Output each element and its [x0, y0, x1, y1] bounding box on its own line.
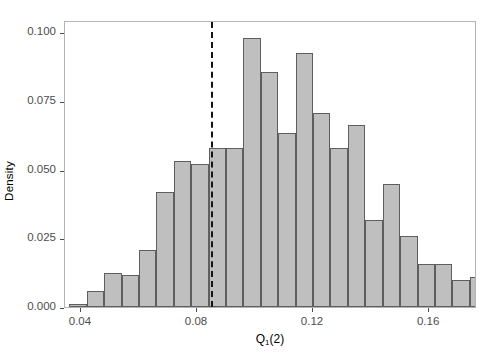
- histogram-bar: [452, 280, 469, 307]
- x-axis-tick-label: 0.12: [290, 315, 334, 327]
- plot-panel: [64, 21, 476, 308]
- y-axis-tick-label: 0.025: [10, 231, 56, 243]
- x-axis-label: Q1(2): [64, 332, 476, 346]
- histogram-bar: [122, 275, 139, 307]
- x-axis-tick-mark: [312, 308, 313, 312]
- histogram-bar: [156, 192, 173, 307]
- histogram-bar: [348, 125, 365, 307]
- reference-dashed-line-icon: [211, 22, 213, 307]
- histogram-bar: [278, 133, 295, 307]
- histogram-bar: [400, 236, 417, 307]
- x-axis-tick-label: 0.16: [406, 315, 450, 327]
- y-axis-tick-label: 0.100: [10, 25, 56, 37]
- histogram-bar: [261, 72, 278, 307]
- histogram-bar: [69, 304, 86, 307]
- histogram-bar: [226, 148, 243, 307]
- y-axis-tick-label: 0.000: [10, 300, 56, 312]
- histogram-bar: [296, 53, 313, 307]
- x-axis-tick-mark: [196, 308, 197, 312]
- x-axis-label-tail: (2): [270, 332, 285, 346]
- x-axis-label-subscript: 1: [265, 338, 269, 347]
- histogram-bar: [243, 38, 260, 307]
- x-axis-tick-mark: [428, 308, 429, 312]
- histogram-bar: [365, 220, 382, 307]
- histogram-bar: [435, 264, 452, 307]
- y-axis-tick-mark: [60, 308, 64, 309]
- x-axis-tick-mark: [80, 308, 81, 312]
- histogram-bar: [139, 250, 156, 307]
- y-axis-tick-label: 0.075: [10, 94, 56, 106]
- histogram-bar: [470, 277, 476, 307]
- x-axis-tick-label: 0.08: [174, 315, 218, 327]
- histogram-bar: [174, 161, 191, 307]
- histogram-bar: [330, 148, 347, 307]
- histogram-bar: [104, 273, 121, 307]
- histogram-bar: [383, 184, 400, 307]
- x-axis-label-base: Q: [256, 332, 265, 346]
- histogram-bar: [191, 164, 208, 307]
- histogram-bar: [313, 113, 330, 307]
- histogram-bar: [87, 291, 104, 307]
- histogram-figure: Density Q1(2) 0.0000.0250.0500.0750.100 …: [0, 0, 495, 362]
- y-axis-tick-label: 0.050: [10, 163, 56, 175]
- x-axis-tick-label: 0.04: [58, 315, 102, 327]
- histogram-bar: [418, 264, 435, 307]
